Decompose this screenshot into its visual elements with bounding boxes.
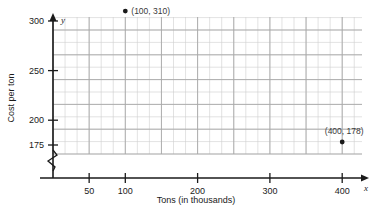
y-tick-label: 175 [29, 140, 44, 150]
x-tick-label: 400 [335, 186, 350, 196]
y-tick-label: 200 [29, 115, 44, 125]
chart-canvas: 175200250300350400 50100200300400 (50, 4… [0, 0, 385, 213]
x-tick-label: 300 [262, 186, 277, 196]
scatter-chart: 175200250300350400 50100200300400 (50, 4… [0, 0, 385, 213]
y-tick-label: 250 [29, 66, 44, 76]
major-gridlines [53, 17, 362, 154]
x-tick-label: 100 [118, 186, 133, 196]
y-axis-letter: y [60, 15, 65, 25]
y-axis-title: Cost per ton [6, 73, 16, 122]
data-point [340, 140, 345, 145]
x-tick-label: 50 [84, 186, 94, 196]
x-axis-arrowhead [361, 175, 369, 182]
data-point [123, 9, 128, 14]
minor-gridlines [53, 17, 362, 154]
x-axis-letter: x [363, 183, 368, 193]
data-points: (50, 409)(100, 310)(400, 178) [87, 0, 364, 144]
y-axis-arrowhead [50, 13, 57, 21]
y-tick-label: 300 [29, 16, 44, 26]
data-point-label: (400, 178) [325, 126, 364, 136]
x-axis-title: Tons (in thousands) [157, 195, 236, 205]
data-point-label: (100, 310) [131, 6, 170, 16]
y-tick-labels: 175200250300350400 [29, 0, 44, 150]
